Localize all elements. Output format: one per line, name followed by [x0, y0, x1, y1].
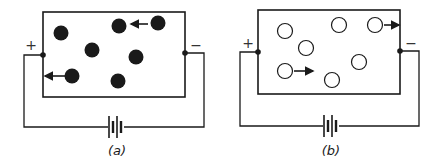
hole-particle: [278, 64, 293, 79]
panel-a-metal-conductor: +−(a): [24, 12, 204, 158]
panel-label: (a): [108, 143, 126, 158]
positive-terminal: [40, 52, 46, 58]
hole-particle: [332, 18, 347, 33]
positive-terminal: [255, 49, 261, 55]
plus-sign: +: [25, 37, 37, 53]
panel-b-semiconductor-holes: +−(b): [240, 10, 419, 158]
minus-sign: −: [405, 35, 417, 51]
hole-particle: [299, 41, 314, 56]
negative-terminal: [397, 48, 403, 54]
plus-sign: +: [242, 35, 254, 51]
battery-icon: [109, 116, 121, 138]
panel-label: (b): [322, 143, 340, 158]
minus-sign: −: [190, 37, 202, 53]
wire-left: [24, 55, 108, 127]
wire-left: [240, 52, 323, 126]
electron-particle: [85, 43, 100, 58]
electron-particle: [151, 16, 166, 31]
hole-particle: [325, 73, 340, 88]
electron-particle: [111, 74, 126, 89]
negative-terminal: [182, 50, 188, 56]
hole-particle: [352, 55, 367, 70]
electron-particle: [112, 19, 127, 34]
hole-particle: [368, 18, 383, 33]
electron-particle: [54, 26, 69, 41]
hole-particle: [278, 24, 293, 39]
battery-icon: [324, 115, 336, 137]
electron-particle: [65, 69, 80, 84]
electron-particle: [129, 50, 144, 65]
circuit-diagram: +−(a) +−(b): [0, 0, 444, 167]
